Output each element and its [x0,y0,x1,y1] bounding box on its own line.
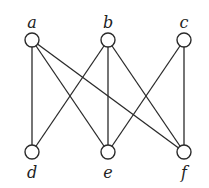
bipartite-graph: abcdef [0,0,209,188]
node-label-c: c [180,13,189,32]
node-label-f: f [180,163,190,182]
node-label-b: b [103,13,113,32]
node-f [177,145,191,159]
node-c [177,33,191,47]
node-a [25,33,39,47]
node-label-e: e [103,163,112,182]
node-e [101,145,115,159]
node-d [25,145,39,159]
node-label-a: a [27,13,37,32]
node-b [101,33,115,47]
edges [32,40,184,152]
node-label-d: d [27,163,37,182]
